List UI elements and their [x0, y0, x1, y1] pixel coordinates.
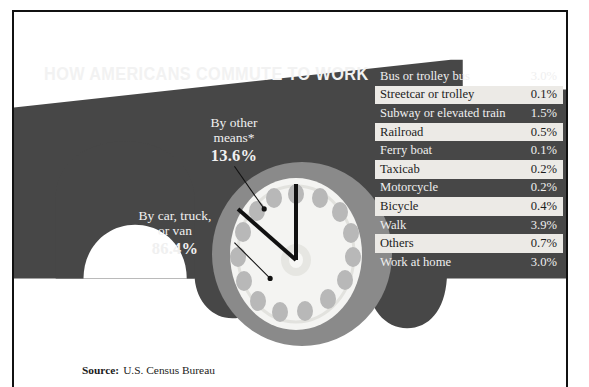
table-row-label: Taxicab	[380, 162, 420, 177]
table-row-value: 0.2%	[531, 180, 557, 195]
table-row-label: Railroad	[380, 125, 423, 140]
source-label: Source:	[82, 364, 119, 376]
callout-other-means: By other means* 13.6%	[188, 115, 280, 166]
table-header: *Other means of commuting	[375, 46, 563, 67]
table-row-label: Bicycle	[380, 199, 418, 214]
table-row-value: 1.5%	[531, 106, 557, 121]
table-row: Ferry boat0.1%	[375, 141, 563, 160]
table-row-label: Others	[380, 236, 414, 251]
table-row-label: Motorcycle	[380, 180, 438, 195]
table-row-label: Work at home	[380, 255, 451, 270]
table-row-value: 3.0%	[531, 69, 557, 84]
table-row-value: 0.7%	[531, 236, 557, 251]
wheel-pie-chart	[210, 162, 394, 346]
table-row: Walk3.9%	[375, 216, 563, 235]
table-row: Bus or trolley bus3.0%	[375, 67, 563, 86]
table-row: Railroad0.5%	[375, 123, 563, 142]
graphic-frame: HOW AMERICANS COMMUTE TO WORK By other m…	[12, 10, 568, 387]
table-row-value: 0.1%	[531, 143, 557, 158]
infographic-canvas: HOW AMERICANS COMMUTE TO WORK By other m…	[0, 0, 589, 387]
table-row: Subway or elevated train1.5%	[375, 104, 563, 123]
table-row: Streetcar or trolley0.1%	[375, 86, 563, 105]
table-row: Taxicab0.2%	[375, 160, 563, 179]
table-row-label: Ferry boat	[380, 143, 432, 158]
table-body: Bus or trolley bus3.0%Streetcar or troll…	[375, 67, 563, 272]
table-row-value: 0.4%	[531, 199, 557, 214]
page-title: HOW AMERICANS COMMUTE TO WORK	[44, 64, 351, 85]
table-row-label: Walk	[380, 218, 406, 233]
table-row: Work at home3.0%	[375, 253, 563, 272]
table-row: Motorcycle0.2%	[375, 179, 563, 198]
table-row-value: 0.2%	[531, 162, 557, 177]
table-row-label: Bus or trolley bus	[380, 69, 470, 84]
table-row: Bicycle0.4%	[375, 197, 563, 216]
table-row-value: 0.1%	[531, 87, 557, 102]
source-text: U.S. Census Bureau	[123, 364, 215, 376]
table-row-value: 3.9%	[531, 218, 557, 233]
source-credit: Source:U.S. Census Bureau	[82, 364, 215, 376]
table-row-value: 3.0%	[531, 255, 557, 270]
other-means-table: *Other means of commuting Bus or trolley…	[375, 46, 563, 272]
table-row-label: Streetcar or trolley	[380, 87, 474, 102]
table-row-label: Subway or elevated train	[380, 106, 506, 121]
table-row: Others0.7%	[375, 234, 563, 253]
table-row-value: 0.5%	[531, 125, 557, 140]
callout-other-line2: means*	[188, 130, 280, 145]
callout-other-line1: By other	[188, 115, 280, 130]
